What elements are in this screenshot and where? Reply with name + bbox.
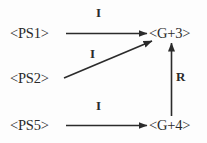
edge-label-ps2-to-g3: I <box>90 47 95 60</box>
node-g-plus-4: <G+4> <box>149 118 190 133</box>
node-ps5: <PS5> <box>10 118 49 133</box>
diagram-canvas: <PS1> <PS2> <PS5> <G+3> <G+4> I I I R <box>0 0 207 143</box>
node-g-plus-3: <G+3> <box>149 26 190 41</box>
edge-label-ps5-to-g4: I <box>96 99 101 112</box>
edge-ps2-to-g3 <box>64 41 152 78</box>
edge-label-ps1-to-g3: I <box>96 6 101 19</box>
edge-label-g4-to-g3: R <box>176 70 185 83</box>
node-ps1: <PS1> <box>10 26 49 41</box>
node-ps2: <PS2> <box>10 71 49 86</box>
